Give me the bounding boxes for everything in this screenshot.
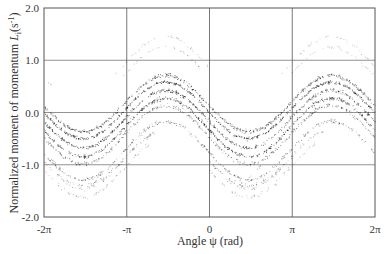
chart: 2.01.00.0-1.0-2.0 -2π-π0π2π Angle ψ (rad…: [0, 0, 384, 254]
y-tick-label: -2.0: [22, 211, 40, 223]
x-tick-label: -2π: [37, 223, 52, 235]
y-tick-label: 2.0: [25, 2, 39, 14]
y-tick-label: -1.0: [22, 159, 40, 171]
grid-lines: [44, 8, 375, 217]
y-tick-label: 0.0: [25, 107, 39, 119]
y-axis-label: Normalized moment of momentum Li(s-1): [7, 13, 23, 214]
x-tick-label: -π: [122, 223, 132, 235]
x-axis-label: Angle ψ (rad): [177, 234, 243, 248]
scatter-points: [44, 35, 375, 199]
y-axis-ticks: 2.01.00.0-1.0-2.0: [22, 2, 40, 223]
x-tick-label: 2π: [369, 223, 381, 235]
y-tick-label: 1.0: [25, 54, 39, 66]
x-tick-label: π: [289, 223, 295, 235]
